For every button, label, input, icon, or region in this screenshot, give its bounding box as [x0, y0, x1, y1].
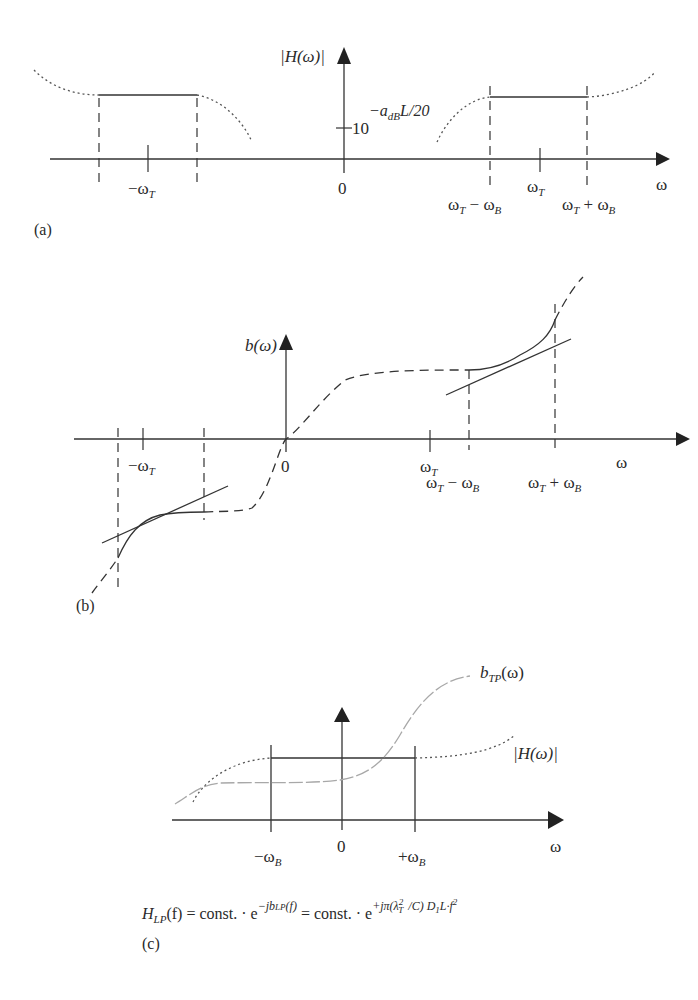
tick-sub: T [431, 466, 437, 478]
panel-a-x-arrow-icon [656, 152, 670, 166]
panel-c-magnitude-curve-label: |H(ω)| [513, 745, 558, 762]
panel-c-tick-neg-wb: −ωB [254, 848, 282, 865]
tick-text: 0 [337, 837, 346, 856]
eq-exp: /C) D [408, 899, 435, 913]
panel-b-tick-wt: ωT [420, 458, 437, 475]
eq-part: H [142, 905, 154, 922]
panel-a-y-arrow-icon [337, 47, 351, 64]
curve-label-text: |H(ω)| [513, 744, 558, 763]
tick-exp-tail: L/20 [400, 102, 429, 119]
tick-text: −ω [254, 847, 275, 866]
panel-a-graphic [34, 47, 670, 185]
panel-a-tick-wt-minus-wb: ωT − ωB [448, 196, 501, 213]
eq-exp-sub: T [398, 905, 403, 915]
eq-exp-sup: 2 [453, 897, 458, 907]
panel-a-tick-wt-plus-wb: ωT + ωB [562, 196, 615, 213]
panel-b-y-axis-label: b(ω) [245, 337, 277, 354]
tick-sub: T [459, 204, 465, 216]
curve-label-text: b [480, 663, 489, 682]
panel-label-text: (c) [142, 935, 160, 952]
tick-text: − ω [465, 195, 494, 214]
curve-label-sub: TP [489, 672, 502, 684]
panel-a-y-tick-label: 10−adBL/20 [352, 120, 429, 137]
tick-sub: B [275, 856, 282, 868]
panel-b-tick-zero: 0 [281, 458, 290, 475]
x-axis-label-text: ω [616, 453, 627, 472]
panel-b-tick-neg-wt: −ωT [128, 457, 155, 474]
panel-label-text: (a) [34, 221, 52, 238]
y-axis-label-text: |H(ω)| [280, 47, 325, 66]
tick-sub: B [575, 482, 582, 494]
panel-c-tick-pos-wb: +ωB [398, 848, 426, 865]
panel-a-tick-zero: 0 [338, 180, 347, 197]
panel-c-x-axis-label: ω [550, 838, 561, 855]
x-axis-label-text: ω [550, 837, 561, 856]
eq-exp-sub: 1 [435, 905, 440, 915]
y-axis-label-text: b(ω) [245, 336, 277, 355]
x-axis-label-text: ω [656, 175, 667, 194]
tick-sub: T [149, 465, 155, 477]
panel-label-text: (b) [76, 597, 95, 614]
panel-b-x-axis-label: ω [616, 454, 627, 471]
tick-exp: −a [369, 102, 388, 119]
tick-text: + ω [579, 195, 608, 214]
tick-exp-sub: dB [388, 110, 400, 122]
tick-base: 10 [352, 119, 369, 138]
tick-text: + ω [545, 473, 574, 492]
panel-b-tick-wt-plus-wb: ωT + ωB [528, 474, 581, 491]
tick-sub: B [473, 482, 480, 494]
panel-c-label: (c) [142, 936, 160, 952]
panel-b-label: (b) [76, 598, 95, 614]
tick-text: ω [420, 457, 431, 476]
tick-sub: T [149, 188, 155, 200]
panel-b-x-arrow-icon [676, 432, 690, 446]
panel-c-equation: HLP(f) = const. · e−jbLP(f) = const. · e… [142, 906, 457, 922]
panel-c-graphic [172, 676, 564, 832]
panel-a-y-axis-label: |H(ω)| [280, 48, 325, 65]
eq-part: = const. · e [297, 905, 372, 922]
panel-c-x-arrow-icon [548, 811, 564, 829]
panel-b-graphic [74, 277, 690, 593]
tick-text: ω [562, 195, 573, 214]
tick-text: −ω [128, 456, 149, 475]
tick-text: +ω [398, 847, 419, 866]
eq-sub: LP [154, 913, 167, 925]
figure-drawing [0, 0, 698, 1000]
panel-c-y-arrow-icon [334, 707, 350, 722]
panel-b-y-arrow-icon [279, 334, 293, 350]
tick-sub: T [538, 186, 544, 198]
panel-a-x-axis-label: ω [656, 176, 667, 193]
panel-a-tick-neg-wt: −ωT [128, 180, 155, 197]
tick-text: −ω [128, 179, 149, 198]
tick-sub: T [539, 482, 545, 494]
eq-exp: +jπ(λ [372, 899, 399, 913]
tick-sub: T [437, 482, 443, 494]
tick-text: 0 [281, 457, 290, 476]
tick-sub: B [419, 856, 426, 868]
tick-text: ω [527, 177, 538, 196]
panel-c-phase-curve-label: bTP(ω) [480, 664, 524, 681]
eq-exp: L·f [440, 899, 453, 913]
panel-a-label: (a) [34, 222, 52, 238]
tick-sub: B [609, 204, 616, 216]
panel-c-tick-zero: 0 [337, 838, 346, 855]
tick-text: 0 [338, 179, 347, 198]
tick-text: − ω [443, 473, 472, 492]
eq-part: (f) = const. · e [166, 905, 257, 922]
eq-exp: (f) [286, 899, 297, 913]
eq-exp: −jb [258, 899, 275, 913]
curve-label-text: (ω) [501, 663, 524, 682]
eq-exp-sub: LP [275, 902, 286, 912]
tick-sub: B [495, 204, 502, 216]
panel-a-tick-wt: ωT [527, 178, 544, 195]
tick-text: ω [448, 195, 459, 214]
tick-text: ω [528, 473, 539, 492]
tick-sub: T [573, 204, 579, 216]
